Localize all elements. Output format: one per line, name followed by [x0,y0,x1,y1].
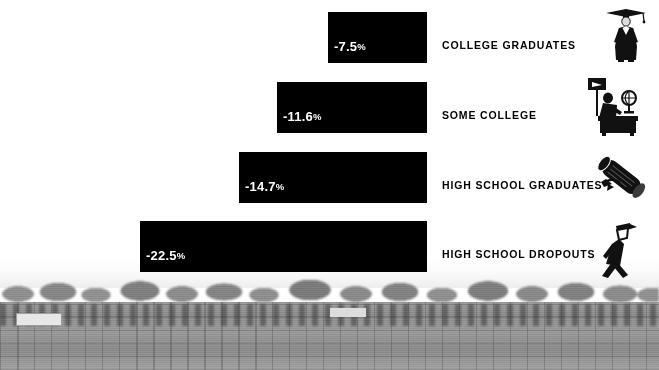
bar-value-some-college: -11.6% [283,109,322,124]
bar-value-college-graduates: -7.5% [334,39,366,54]
category-label-some-college: SOME COLLEGE [442,109,537,121]
person-walking-away-icon [590,216,646,278]
bar-some-college [277,82,427,133]
bar-row: -14.7% HIGH SCHOOL GRADUATES [0,152,659,203]
student-at-desk-with-globe-icon [586,74,642,136]
photo-far-building [330,308,366,317]
photo-shed [16,313,62,326]
bar-row: -11.6% SOME COLLEGE [0,82,659,133]
bar-row: -7.5% COLLEGE GRADUATES [0,12,659,63]
bar-high-school-graduates [239,152,427,203]
bar-high-school-dropouts [140,221,427,272]
category-label-high-school-dropouts: HIGH SCHOOL DROPOUTS [442,248,595,260]
background-photograph [0,258,659,370]
rolled-diploma-scroll-icon [588,146,644,208]
bar-row: -22.5% HIGH SCHOOL DROPOUTS [0,221,659,272]
bar-college-graduates [328,12,427,63]
graduate-in-cap-and-gown-icon [596,4,652,66]
bar-value-high-school-dropouts: -22.5% [146,248,185,263]
category-label-college-graduates: COLLEGE GRADUATES [442,39,576,51]
bar-value-high-school-graduates: -14.7% [245,179,284,194]
category-label-high-school-graduates: HIGH SCHOOL GRADUATES [442,179,602,191]
